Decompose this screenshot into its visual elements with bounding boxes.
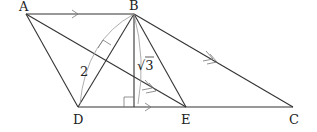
- label-point-e: E: [181, 112, 191, 127]
- label-point-a: A: [18, 0, 29, 14]
- label-point-d: D: [73, 112, 83, 127]
- label-point-b: B: [129, 0, 139, 13]
- label-length-bd: 2: [80, 64, 88, 79]
- label-length-bh: √3: [137, 58, 154, 73]
- segment-bc: [134, 14, 293, 107]
- segment-ae: [26, 14, 186, 107]
- label-point-c: C: [289, 112, 299, 127]
- segment-ad: [26, 14, 78, 107]
- geometry-diagram: A B C D E 2 √3: [0, 0, 317, 132]
- right-angle-marker-h: [124, 97, 134, 107]
